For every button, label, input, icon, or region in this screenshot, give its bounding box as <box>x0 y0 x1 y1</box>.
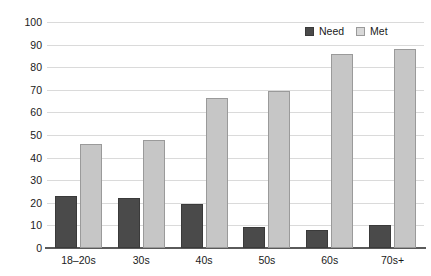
bar-need <box>243 227 265 248</box>
x-axis-tick-label: 70s+ <box>361 251 424 271</box>
x-axis-tick-label: 18–20s <box>47 251 110 271</box>
bar-met <box>80 144 102 248</box>
bar-group <box>298 22 361 248</box>
bar-met <box>268 91 290 248</box>
bar-need <box>369 225 391 248</box>
y-axis-tick-label: 10 <box>2 220 42 231</box>
bar-group <box>110 22 173 248</box>
y-axis-tick-label: 80 <box>2 62 42 73</box>
bar-need <box>55 196 77 248</box>
y-axis-tick-label: 40 <box>2 152 42 163</box>
x-axis-tick-label: 50s <box>235 251 298 271</box>
legend-swatch-need-icon <box>305 27 314 36</box>
chart-legend: Need Met <box>305 26 388 37</box>
bar-groups <box>47 22 424 248</box>
y-axis-tick-label: 30 <box>2 175 42 186</box>
bar-chart: 0102030405060708090100 18–20s30s40s50s60… <box>0 0 431 276</box>
bar-met <box>331 54 353 248</box>
x-axis-tick-label: 30s <box>110 251 173 271</box>
bar-need <box>118 198 140 248</box>
y-axis-tick-label: 20 <box>2 198 42 209</box>
bar-met <box>394 49 416 248</box>
bar-met <box>143 140 165 248</box>
y-axis-tick-label: 70 <box>2 85 42 96</box>
y-axis-tick-label: 50 <box>2 130 42 141</box>
legend-entry-met: Met <box>356 26 388 37</box>
y-axis-tick-label: 60 <box>2 107 42 118</box>
y-axis-tick-labels: 0102030405060708090100 <box>0 22 42 248</box>
y-axis-tick-label: 0 <box>2 243 42 254</box>
bar-need <box>181 204 203 248</box>
x-axis-tick-label: 60s <box>298 251 361 271</box>
y-axis-tick-label: 90 <box>2 39 42 50</box>
legend-label-need: Need <box>319 26 344 37</box>
legend-label-met: Met <box>370 26 388 37</box>
x-axis-tick-label: 40s <box>173 251 236 271</box>
bar-met <box>206 98 228 248</box>
bar-group <box>361 22 424 248</box>
bar-group <box>47 22 110 248</box>
y-axis-tick-label: 100 <box>2 17 42 28</box>
bar-need <box>306 230 328 248</box>
legend-swatch-met-icon <box>356 27 365 36</box>
bar-group <box>173 22 236 248</box>
legend-entry-need: Need <box>305 26 344 37</box>
x-axis-tick-labels: 18–20s30s40s50s60s70s+ <box>47 251 424 271</box>
bar-group <box>235 22 298 248</box>
